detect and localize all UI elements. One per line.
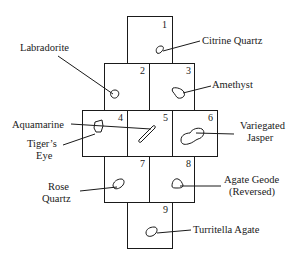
agate-geode-stone-icon (172, 179, 183, 188)
label-aquamarine: Aquamarine (12, 119, 64, 131)
label-tigers-eye-1: Tiger’s (27, 138, 57, 150)
labradorite-stone-icon (111, 90, 119, 98)
label-rose-quartz-1: Rose (48, 181, 69, 193)
cell-number-6: 6 (208, 113, 213, 123)
label-variegated-1: Variegated (240, 120, 285, 132)
leader-rose-quartz (80, 187, 117, 191)
amethyst-stone-icon (172, 88, 184, 98)
leader-variegated (196, 133, 234, 134)
label-agate-geode-1: Agate Geode (224, 174, 279, 186)
label-labradorite: Labradorite (20, 42, 69, 54)
label-amethyst: Amethyst (212, 79, 253, 91)
cell-number-5: 5 (163, 113, 168, 123)
cell-number-7: 7 (140, 159, 145, 169)
citrine-stone-icon (156, 46, 163, 53)
label-citrine-quartz: Citrine Quartz (202, 35, 262, 47)
cell-number-3: 3 (186, 66, 191, 76)
cell-number-1: 1 (162, 20, 167, 30)
cell-number-8: 8 (186, 159, 191, 169)
label-variegated-2: Jasper (247, 132, 273, 144)
cell-number-9: 9 (163, 205, 168, 215)
turritella-agate-stone-icon (146, 227, 157, 236)
leader-citrine (163, 41, 200, 51)
label-agate-geode-2: (Reversed) (229, 186, 275, 198)
leader-amethyst (183, 86, 211, 93)
label-turritella-agate: Turritella Agate (193, 224, 259, 236)
leader-tigers-eye (63, 134, 95, 145)
cell-number-2: 2 (140, 66, 145, 76)
label-rose-quartz-2: Quartz (42, 193, 71, 205)
cell-number-4: 4 (118, 113, 123, 123)
label-tigers-eye-2: Eye (36, 150, 52, 162)
variegated-jasper-stone-icon (181, 128, 204, 144)
leader-turritella (157, 230, 191, 233)
